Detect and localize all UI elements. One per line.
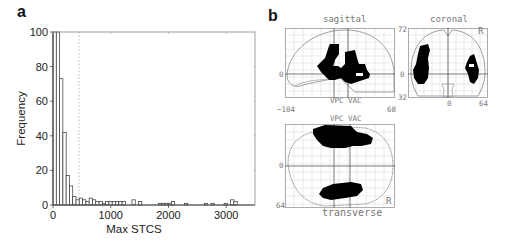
plot-frame bbox=[53, 32, 255, 205]
coronal-xmax-label: 64 bbox=[479, 99, 488, 108]
coronal-view bbox=[408, 28, 488, 98]
x-tick-label: 1000 bbox=[98, 209, 122, 221]
transverse-bottom-label: 64 bbox=[276, 201, 285, 210]
histogram-bar bbox=[69, 186, 72, 205]
sagittal-bottom-label: VPC VAC bbox=[330, 96, 362, 105]
sagittal-zero-label: 0 bbox=[279, 70, 284, 79]
histogram-bar bbox=[132, 200, 135, 205]
histogram-chart: 0204060801000100020003000Max STCSFrequen… bbox=[0, 0, 265, 242]
transverse-view bbox=[285, 124, 395, 208]
y-tick-label: 40 bbox=[36, 130, 48, 142]
coronal-bottom-label: 32 bbox=[398, 93, 407, 102]
coronal-xzero-label: 0 bbox=[447, 99, 452, 108]
coronal-title: coronal bbox=[430, 14, 468, 24]
y-axis-label: Frequency bbox=[15, 91, 27, 146]
y-tick-label: 60 bbox=[36, 95, 48, 107]
histogram-bar bbox=[116, 202, 119, 205]
sagittal-title: sagittal bbox=[323, 14, 366, 24]
histogram-bar bbox=[112, 202, 115, 205]
histogram-bar bbox=[234, 202, 237, 205]
x-tick-label: 0 bbox=[50, 209, 56, 221]
x-tick-label: 2000 bbox=[156, 209, 180, 221]
histogram-bar bbox=[139, 202, 142, 205]
histogram-bar bbox=[89, 198, 92, 205]
histogram-bar bbox=[106, 202, 109, 205]
coronal-zero-label: 0 bbox=[400, 70, 405, 79]
coronal-top-label: 72 bbox=[398, 25, 407, 34]
histogram-bar bbox=[92, 200, 95, 205]
y-tick-label: 100 bbox=[30, 26, 48, 38]
histogram-bar bbox=[66, 176, 69, 205]
sagittal-view bbox=[285, 28, 395, 98]
panel-label-b: b bbox=[268, 7, 278, 25]
histogram-bar bbox=[63, 132, 66, 205]
y-tick-label: 20 bbox=[36, 164, 48, 176]
y-tick-label: 80 bbox=[36, 61, 48, 73]
histogram-bar bbox=[73, 196, 76, 205]
sagittal-xmax-label: 68 bbox=[387, 105, 396, 114]
histogram-bar bbox=[119, 202, 122, 205]
histogram-bar bbox=[231, 200, 234, 205]
histogram-bar bbox=[86, 202, 89, 205]
histogram-bar bbox=[122, 202, 125, 205]
y-tick-label: 0 bbox=[42, 199, 48, 211]
histogram-bar bbox=[99, 202, 102, 205]
histogram-bar bbox=[109, 202, 112, 205]
coronal-side-label: R bbox=[478, 26, 483, 36]
x-tick-label: 3000 bbox=[214, 209, 238, 221]
transverse-side-label: R bbox=[386, 196, 391, 206]
transverse-title: transverse bbox=[322, 207, 382, 218]
sagittal-xmin-label: −104 bbox=[277, 105, 295, 114]
histogram-bar bbox=[96, 202, 99, 205]
transverse-top-label: VPC VAC bbox=[330, 114, 362, 123]
histogram-bar bbox=[171, 202, 174, 205]
histogram-bar bbox=[83, 200, 86, 205]
histogram-bar bbox=[56, 32, 59, 205]
histogram-bar bbox=[79, 198, 82, 205]
x-axis-label: Max STCS bbox=[106, 223, 162, 235]
transverse-zero-label: 0 bbox=[279, 161, 284, 170]
histogram-bar bbox=[60, 79, 63, 205]
